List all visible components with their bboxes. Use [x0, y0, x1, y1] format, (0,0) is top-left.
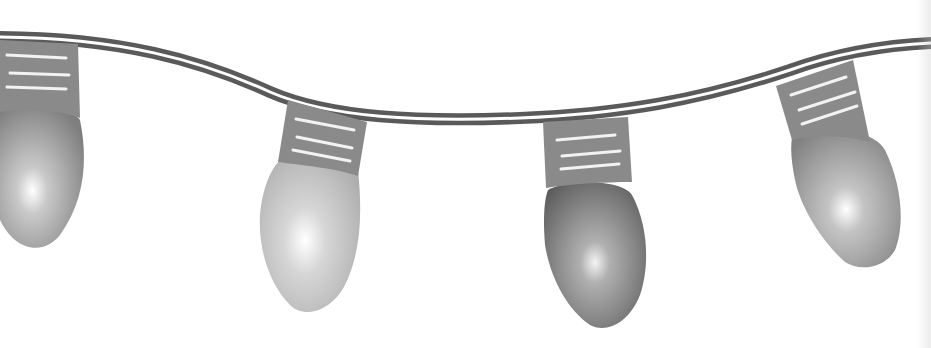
bulb-1	[0, 40, 84, 248]
bulb-4	[776, 60, 901, 267]
bulb-2	[260, 100, 367, 312]
page-edge-shadow	[917, 0, 931, 348]
bulb-3	[543, 117, 646, 328]
christmas-lights-illustration	[0, 0, 931, 348]
